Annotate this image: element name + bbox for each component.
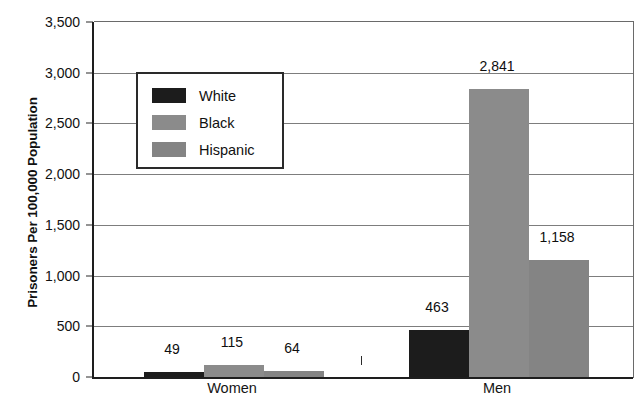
y-tick-label-3000: 3,000	[45, 65, 80, 81]
bar-value-women-black: 115	[221, 334, 243, 350]
category-label-women: Women	[207, 380, 257, 396]
legend-item-black: Black	[138, 109, 282, 136]
bar-value-women-hispanic: 64	[284, 340, 300, 356]
legend-swatch-white-icon	[152, 88, 186, 103]
bar-value-men-white: 463	[425, 299, 448, 315]
bar-chart-figure: Prisoners Per 100,000 Population 0 500 1…	[0, 0, 641, 405]
bar-men-black	[469, 89, 529, 377]
bar-women-hispanic	[264, 371, 324, 377]
legend-item-white: White	[138, 82, 282, 109]
y-axis-ticks: 0 500 1,000 1,500 2,000 2,500 3,000 3,50…	[0, 0, 88, 405]
legend-label-black: Black	[199, 115, 234, 131]
plot-border-top	[94, 21, 633, 22]
legend-label-white: White	[199, 88, 236, 104]
bar-men-hispanic	[529, 260, 589, 377]
gridline-1500	[94, 225, 633, 226]
bar-women-black	[204, 365, 264, 377]
chart-legend: White Black Hispanic	[136, 72, 284, 169]
y-tick-label-500: 500	[57, 318, 80, 334]
y-tick-label-0: 0	[72, 369, 80, 385]
bar-women-white	[144, 372, 204, 377]
legend-swatch-black-icon	[152, 115, 186, 130]
bar-value-men-black: 2,841	[479, 58, 514, 74]
y-tick-label-1000: 1,000	[45, 268, 80, 284]
legend-item-hispanic: Hispanic	[138, 136, 282, 163]
bar-men-white	[409, 330, 469, 377]
y-tick-label-2000: 2,000	[45, 166, 80, 182]
gridline-2000	[94, 174, 633, 175]
category-label-men: Men	[483, 380, 511, 396]
legend-label-hispanic: Hispanic	[199, 142, 255, 158]
category-separator-tick	[361, 356, 362, 365]
y-tick-label-3500: 3,500	[45, 14, 80, 30]
legend-swatch-hispanic-icon	[152, 142, 186, 157]
y-tick-label-2500: 2,500	[45, 115, 80, 131]
plot-border-right	[633, 21, 634, 378]
y-tick-label-1500: 1,500	[45, 217, 80, 233]
bar-value-men-hispanic: 1,158	[539, 229, 574, 245]
bar-value-women-white: 49	[164, 341, 180, 357]
